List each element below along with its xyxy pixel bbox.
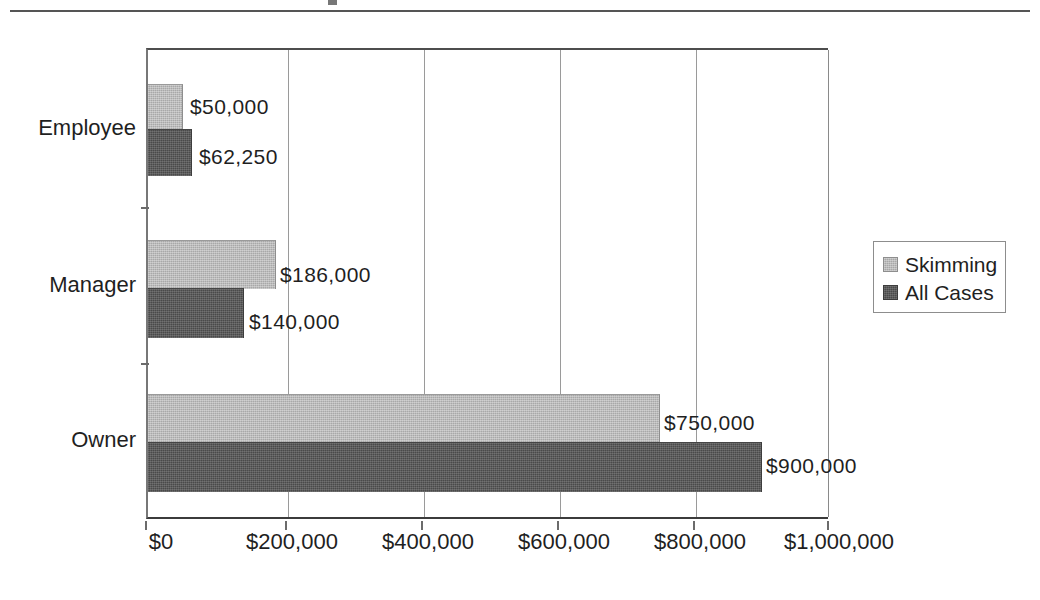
legend-item-allcases[interactable]: All Cases: [883, 278, 1005, 306]
legend-item-skimming[interactable]: Skimming: [883, 250, 1005, 278]
xtick-label-200000: $200,000: [246, 531, 338, 553]
legend-swatch-skimming-icon: [883, 257, 898, 272]
legend-swatch-allcases-icon: [883, 285, 898, 300]
xtick-label-600000: $600,000: [518, 531, 610, 553]
legend-label-allcases: All Cases: [905, 282, 994, 303]
xtick-label-400000: $400,000: [382, 531, 474, 553]
xtickmark-0: [145, 521, 147, 530]
xtick-label-800000: $800,000: [654, 531, 746, 553]
category-axis-labels: Employee Manager Owner: [0, 0, 136, 600]
category-tick-2: [141, 363, 149, 365]
data-label-employee-allcases: $62,250: [199, 146, 278, 167]
category-tick-1: [141, 207, 149, 209]
bar-manager-allcases[interactable]: [148, 288, 244, 338]
xtick-label-0: $0: [149, 531, 173, 553]
category-label-employee: Employee: [0, 117, 136, 139]
bar-owner-skimming[interactable]: [148, 394, 660, 443]
gridline-1000000: [828, 50, 829, 517]
bar-chart-figure: Employee Manager Owner $50,000 $62,250 $…: [0, 0, 1040, 600]
chart-legend: Skimming All Cases: [873, 241, 1006, 313]
data-label-owner-skimming: $750,000: [664, 412, 755, 433]
legend-label-skimming: Skimming: [905, 254, 997, 275]
data-label-manager-allcases: $140,000: [249, 311, 340, 332]
xtick-label-1000000: $1,000,000: [784, 531, 894, 553]
bar-employee-allcases[interactable]: [148, 129, 192, 176]
bar-employee-skimming[interactable]: [148, 84, 183, 130]
data-label-employee-skimming: $50,000: [190, 96, 269, 117]
category-label-owner: Owner: [0, 429, 136, 451]
data-label-manager-skimming: $186,000: [280, 264, 371, 285]
data-label-owner-allcases: $900,000: [766, 455, 857, 476]
plot-area: [146, 48, 828, 519]
bar-owner-allcases[interactable]: [148, 442, 762, 492]
category-label-manager: Manager: [0, 274, 136, 296]
bar-manager-skimming[interactable]: [148, 240, 276, 289]
